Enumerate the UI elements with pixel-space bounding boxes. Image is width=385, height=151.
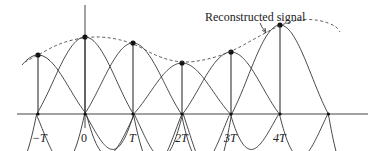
sample-node: [229, 112, 232, 115]
tick-label-0: 0: [81, 131, 87, 145]
sample-node: [83, 112, 86, 115]
tick-label-t: T: [129, 131, 137, 145]
sample-stems: [35, 22, 330, 115]
tick-label-2t: 2T: [175, 131, 189, 145]
sample-point: [82, 34, 87, 39]
annotation-pointer: [260, 23, 265, 31]
reconstructed-signal-label: Reconstructed signal: [205, 10, 306, 24]
sample-point: [35, 52, 40, 57]
reconstructed-signal-curve: [25, 19, 340, 62]
tick-label-3t: 3T: [223, 131, 238, 145]
tick-labels: −T 0 T 2T 3T 4T: [32, 131, 287, 145]
sample-node: [36, 112, 39, 115]
sinc-pulse: [183, 25, 347, 151]
tick-label-4t: 4T: [273, 131, 287, 145]
sample-point: [179, 60, 184, 65]
sample-node: [278, 112, 281, 115]
sample-node: [180, 112, 183, 115]
reconstruction-diagram: Reconstructed signal −T 0 T 2T 3T 4T: [0, 0, 385, 151]
tick-label-minus-t: −T: [32, 131, 48, 145]
sample-node: [327, 112, 330, 115]
sample-node: [131, 112, 134, 115]
